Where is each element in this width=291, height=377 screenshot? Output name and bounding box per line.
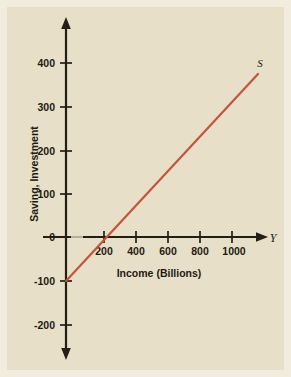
curve-label-s: S [257, 57, 263, 69]
y-tick-label-minus-100: -100 [34, 275, 55, 287]
x-tick-label-400: 400 [127, 245, 145, 257]
y-tick-label-200: 200 [37, 145, 55, 157]
x-tick-label-600: 600 [159, 245, 177, 257]
saving-investment-chart: 400 300 200 100 0 -100 -200 200 400 600 … [7, 7, 284, 370]
y-tick-label-minus-200: -200 [34, 319, 55, 331]
chart-figure: 400 300 200 100 0 -100 -200 200 400 600 … [7, 7, 284, 370]
y-axis-title: Saving, Investment [28, 126, 40, 222]
y-tick-label-0: 0 [49, 231, 55, 243]
y-tick-label-400: 400 [37, 57, 55, 69]
x-tick-label-1000: 1000 [222, 245, 246, 257]
y-tick-label-100: 100 [37, 188, 55, 200]
x-axis-title: Income (Billions) [117, 267, 202, 279]
x-tick-label-800: 800 [191, 245, 209, 257]
y-tick-label-300: 300 [37, 101, 55, 113]
